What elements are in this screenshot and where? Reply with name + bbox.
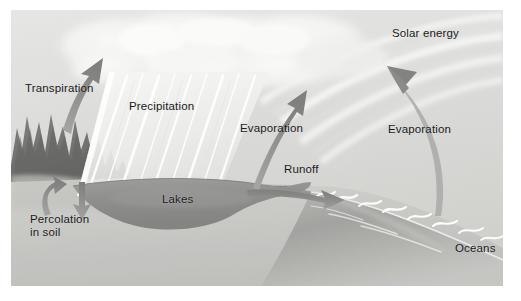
texture-overlay <box>11 10 503 286</box>
water-cycle-figure: Transpiration Precipitation Evaporation … <box>0 0 521 301</box>
water-cycle-scene <box>11 10 503 286</box>
diagram-canvas <box>11 10 503 286</box>
